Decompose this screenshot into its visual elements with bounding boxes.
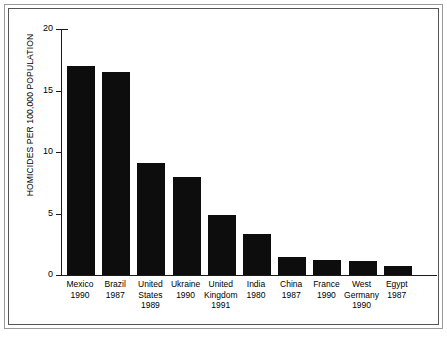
y-axis-tick-label: 15 <box>43 85 53 95</box>
y-axis-tick-label: 10 <box>43 146 53 156</box>
x-axis-label-line: China <box>273 279 309 290</box>
x-axis-label-line: Ukraine <box>168 279 204 290</box>
bar-ukraine <box>173 177 201 275</box>
bar-chart: HOMICIDES PER 100,000 POPULATION 0510152… <box>9 9 438 324</box>
x-axis-label-line: United <box>203 279 239 290</box>
x-axis-label-line: 1990 <box>308 290 344 301</box>
x-axis-labels: Mexico1990Brazil1987UnitedStates1989Ukra… <box>61 279 443 325</box>
x-axis-label: Mexico1990 <box>62 279 98 300</box>
bar-mexico <box>67 66 95 275</box>
x-axis-label: China1987 <box>273 279 309 300</box>
y-axis-tick-label: 5 <box>48 208 53 218</box>
x-axis-label-line: France <box>308 279 344 290</box>
x-axis-label: WestGermany1990 <box>344 279 380 311</box>
x-axis-label: France1990 <box>308 279 344 300</box>
x-axis-label-line: 1991 <box>203 300 239 311</box>
x-axis-label-line: 1987 <box>97 290 133 301</box>
y-axis-tick: 5 <box>56 214 61 215</box>
x-axis-label-line: India <box>238 279 274 290</box>
y-axis-tick-label: 0 <box>48 269 53 279</box>
y-axis-tick-label: 20 <box>43 23 53 33</box>
bar-egypt <box>384 266 412 275</box>
bar-brazil <box>102 72 130 275</box>
x-axis-label-line: States <box>132 290 168 301</box>
figure-inner-frame: HOMICIDES PER 100,000 POPULATION 0510152… <box>8 8 439 325</box>
x-axis-label-line: United <box>132 279 168 290</box>
x-axis-label-line: 1989 <box>132 300 168 311</box>
x-axis-label-line: Kingdom <box>203 290 239 301</box>
x-axis-label-line: 1990 <box>168 290 204 301</box>
x-axis-line <box>61 275 437 276</box>
bar-united-kingdom <box>208 215 236 275</box>
x-axis-label: India1980 <box>238 279 274 300</box>
x-axis-label: UnitedStates1989 <box>132 279 168 311</box>
bars-layer <box>62 29 441 275</box>
bar-west-germany <box>349 261 377 275</box>
x-axis-label-line: 1990 <box>344 300 380 311</box>
x-axis-label: Ukraine1990 <box>168 279 204 300</box>
bar-india <box>243 234 271 275</box>
x-axis-label-line: Germany <box>344 290 380 301</box>
bar-china <box>278 257 306 275</box>
x-axis-label-line: West <box>344 279 380 290</box>
y-axis-title: HOMICIDES PER 100,000 POPULATION <box>25 15 35 215</box>
bar-france <box>313 260 341 275</box>
y-axis-tick: 10 <box>56 152 61 153</box>
figure-outer-frame: HOMICIDES PER 100,000 POPULATION 0510152… <box>4 4 443 329</box>
x-axis-label: Egypt1987 <box>379 279 415 300</box>
x-axis-label-line: 1987 <box>379 290 415 301</box>
plot-area: 05101520 <box>61 29 441 275</box>
x-axis-label-line: 1990 <box>62 290 98 301</box>
x-axis-label: UnitedKingdom1991 <box>203 279 239 311</box>
y-axis-tick: 15 <box>56 91 61 92</box>
y-axis-tick: 20 <box>56 29 61 30</box>
x-axis-label: Brazil1987 <box>97 279 133 300</box>
x-axis-label-line: Mexico <box>62 279 98 290</box>
x-axis-label-line: Brazil <box>97 279 133 290</box>
y-axis-tick: 0 <box>56 275 61 276</box>
bar-united-states <box>137 163 165 275</box>
x-axis-label-line: 1987 <box>273 290 309 301</box>
x-axis-label-line: Egypt <box>379 279 415 290</box>
x-axis-label-line: 1980 <box>238 290 274 301</box>
